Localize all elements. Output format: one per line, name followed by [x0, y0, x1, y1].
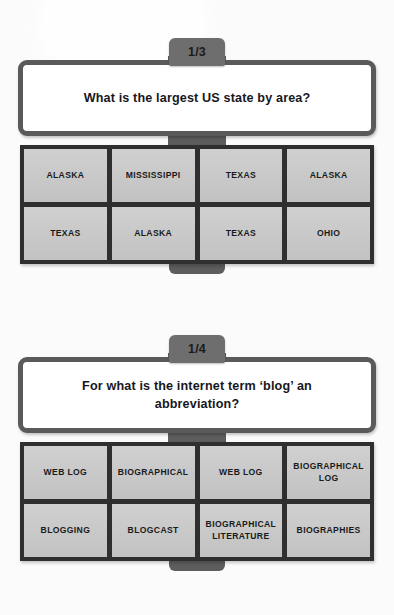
answer-option[interactable]: BIOGRAPHICAL LOG	[287, 446, 370, 499]
question-text: What is the largest US state by area?	[62, 89, 333, 107]
answer-option[interactable]: BIOGRAPHIES	[287, 504, 370, 557]
question-counter-badge: 1/4	[169, 335, 225, 363]
question-text: For what is the internet term ‘blog’ an …	[23, 377, 371, 414]
answer-option[interactable]: MISSISSIPPI	[112, 149, 195, 202]
card-bottom-nub	[169, 263, 225, 274]
answer-option[interactable]: ALASKA	[24, 149, 107, 202]
answer-option[interactable]: BIOGRAPHICAL	[112, 446, 195, 499]
answer-option[interactable]: TEXAS	[24, 207, 107, 260]
answer-option[interactable]: ALASKA	[287, 149, 370, 202]
answer-option[interactable]: WEB LOG	[200, 446, 283, 499]
answers-grid: WEB LOG BIOGRAPHICAL WEB LOG BIOGRAPHICA…	[20, 442, 374, 561]
answer-option[interactable]: WEB LOG	[24, 446, 107, 499]
answer-option[interactable]: BIOGRAPHICAL LITERATURE	[200, 504, 283, 557]
answer-option[interactable]: BLOGCAST	[112, 504, 195, 557]
answer-option[interactable]: OHIO	[287, 207, 370, 260]
card-bottom-nub	[169, 560, 225, 571]
quiz-page: 1/3 What is the largest US state by area…	[0, 0, 394, 615]
answers-grid: ALASKA MISSISSIPPI TEXAS ALASKA TEXAS AL…	[20, 145, 374, 264]
question-box: What is the largest US state by area?	[18, 60, 376, 136]
answer-option[interactable]: ALASKA	[112, 207, 195, 260]
question-box: For what is the internet term ‘blog’ an …	[18, 357, 376, 433]
answer-option[interactable]: TEXAS	[200, 207, 283, 260]
question-counter-badge: 1/3	[169, 38, 225, 66]
answer-option[interactable]: TEXAS	[200, 149, 283, 202]
answer-option[interactable]: BLOGGING	[24, 504, 107, 557]
